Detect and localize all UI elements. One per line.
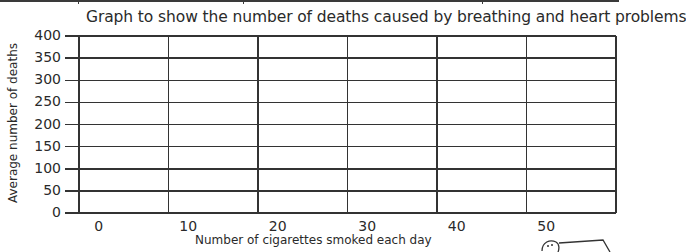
x-tick-label: 20 (258, 218, 298, 234)
y-tick-label: 400 (21, 28, 61, 42)
y-tick-label: 150 (21, 139, 61, 153)
y-tick-label: 350 (21, 50, 61, 64)
gridline-vertical (526, 36, 528, 213)
x-tick-label: 10 (168, 218, 208, 234)
y-tick (65, 168, 79, 170)
top-border-tick (482, 0, 483, 4)
gridline-vertical (436, 36, 438, 213)
top-border-tick (243, 0, 244, 4)
y-tick-label: 0 (21, 205, 61, 219)
y-axis-label: Average number of deaths (6, 43, 20, 203)
y-tick-label: 200 (21, 117, 61, 131)
x-tick-label: 40 (437, 218, 477, 234)
x-tick-label: 30 (347, 218, 387, 234)
x-tick-label: 0 (79, 218, 119, 234)
top-table-border (0, 0, 619, 2)
cartoon-figure-icon (540, 236, 620, 252)
y-tick (65, 124, 79, 126)
y-tick-label: 300 (21, 72, 61, 86)
chart-title: Graph to show the number of deaths cause… (86, 8, 686, 26)
y-tick (65, 146, 79, 148)
y-tick (65, 80, 79, 82)
y-tick (65, 35, 79, 37)
y-tick (65, 102, 79, 104)
gridline-vertical (257, 36, 259, 213)
gridline-vertical (168, 36, 170, 213)
x-axis-label: Number of cigarettes smoked each day (195, 233, 432, 247)
y-tick (65, 212, 79, 214)
y-tick-label: 50 (21, 183, 61, 197)
y-tick-label: 250 (21, 94, 61, 108)
y-tick-label: 100 (21, 161, 61, 175)
gridline-vertical (347, 36, 349, 213)
y-tick (65, 57, 79, 59)
gridline-vertical (78, 36, 80, 213)
gridline-vertical (615, 36, 617, 213)
y-tick (65, 190, 79, 192)
x-tick-label: 50 (526, 218, 566, 234)
top-border-tick (78, 0, 79, 4)
